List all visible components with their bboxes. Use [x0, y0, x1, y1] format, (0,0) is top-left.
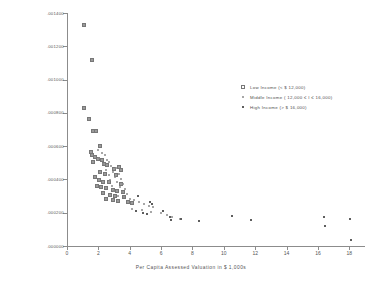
- data-point: [98, 157, 100, 159]
- data-point: [162, 210, 164, 212]
- data-point: [94, 129, 98, 133]
- data-point: [97, 149, 99, 151]
- data-point: [108, 193, 112, 197]
- x-axis-title: Per Capita Assessed Valuation in $ 1,000…: [0, 265, 382, 270]
- data-point: [152, 206, 154, 208]
- x-tick-label: 2: [88, 250, 108, 256]
- data-point: [104, 154, 106, 156]
- data-point: [198, 220, 200, 222]
- data-point: [138, 201, 140, 203]
- data-point: [99, 185, 103, 189]
- data-point: [126, 200, 130, 204]
- data-point: [82, 106, 86, 110]
- data-point: [118, 173, 120, 175]
- x-tick-label: 18: [339, 250, 359, 256]
- data-point: [119, 168, 123, 172]
- x-axis-line: [67, 246, 365, 247]
- scatter-plot-figure: .001400.001200.001000.000800.000600.0004…: [0, 0, 382, 291]
- data-point: [135, 210, 137, 212]
- x-tick-label: 12: [245, 250, 265, 256]
- data-point: [107, 180, 111, 184]
- chart-legend: Low Income (< $ 12,000)Middle Income ( 1…: [240, 82, 333, 112]
- x-tick-label: 0: [57, 250, 77, 256]
- legend-item: Middle Income ( 12,000 ≤ I ≤ 16,000): [240, 92, 333, 102]
- data-point: [113, 190, 115, 192]
- data-point: [111, 198, 115, 202]
- data-point: [116, 181, 118, 183]
- data-point: [108, 161, 110, 163]
- data-point: [91, 160, 95, 164]
- data-point: [98, 144, 102, 148]
- data-point: [150, 211, 152, 213]
- x-tick-label: 16: [308, 250, 328, 256]
- data-point: [133, 199, 135, 201]
- legend-label: Middle Income ( 12,000 ≤ I ≤ 16,000): [250, 95, 333, 100]
- data-point: [231, 215, 233, 217]
- data-point: [170, 219, 172, 221]
- data-point: [115, 189, 119, 193]
- legend-item: High Income (> $ 16,000): [240, 102, 333, 112]
- data-point: [82, 23, 86, 27]
- y-tick-label: .001400: [4, 11, 64, 16]
- y-axis-line: [67, 13, 68, 247]
- x-tick-label: 6: [151, 250, 171, 256]
- x-tick-label: 8: [182, 250, 202, 256]
- data-point: [151, 203, 153, 205]
- data-point: [143, 203, 145, 205]
- x-tick-label: 4: [120, 250, 140, 256]
- y-tick-label: .000400: [4, 177, 64, 182]
- data-point: [101, 180, 105, 184]
- y-tick-label: .000800: [4, 110, 64, 115]
- data-point: [126, 193, 128, 195]
- data-point: [111, 185, 113, 187]
- legend-marker-icon: [240, 96, 246, 98]
- data-point: [350, 239, 352, 241]
- legend-marker-icon: [240, 106, 246, 108]
- data-point: [104, 186, 108, 190]
- data-point: [103, 172, 107, 176]
- data-point: [114, 176, 116, 178]
- x-tick-label: 14: [277, 250, 297, 256]
- data-point: [130, 201, 134, 205]
- data-point: [101, 152, 103, 154]
- legend-label: High Income (> $ 16,000): [250, 105, 307, 110]
- data-point: [105, 169, 107, 171]
- y-tick-label: .001200: [4, 44, 64, 49]
- data-point: [116, 199, 120, 203]
- plot-area: .001400.001200.001000.000800.000600.0004…: [0, 0, 382, 291]
- data-point: [180, 218, 182, 220]
- data-point: [90, 58, 94, 62]
- data-point: [120, 178, 122, 180]
- data-point: [323, 216, 325, 218]
- data-point: [129, 198, 131, 200]
- data-point: [117, 195, 119, 197]
- data-point: [108, 174, 110, 176]
- data-point: [122, 183, 124, 185]
- data-point: [104, 197, 108, 201]
- data-point: [119, 186, 121, 188]
- y-tick-label: .000600: [4, 144, 64, 149]
- data-point: [141, 209, 143, 211]
- data-point: [87, 117, 91, 121]
- data-point: [98, 170, 102, 174]
- y-tick-label: .001000: [4, 77, 64, 82]
- data-point: [124, 188, 126, 190]
- data-point: [250, 219, 252, 221]
- data-point: [146, 213, 148, 215]
- data-point: [160, 212, 162, 214]
- data-point: [137, 195, 139, 197]
- data-point: [324, 225, 326, 227]
- x-tick-label: 10: [214, 250, 234, 256]
- y-tick-label: .000200: [4, 210, 64, 215]
- y-tick-label: .000000: [4, 244, 64, 249]
- data-point: [101, 191, 105, 195]
- data-point: [148, 205, 150, 207]
- legend-label: Low Income (< $ 12,000): [250, 85, 306, 90]
- data-point: [105, 163, 109, 167]
- legend-item: Low Income (< $ 12,000): [240, 82, 333, 92]
- legend-marker-icon: [240, 85, 246, 89]
- data-point: [142, 212, 144, 214]
- data-point: [349, 218, 351, 220]
- data-point: [109, 179, 111, 181]
- data-point: [131, 208, 133, 210]
